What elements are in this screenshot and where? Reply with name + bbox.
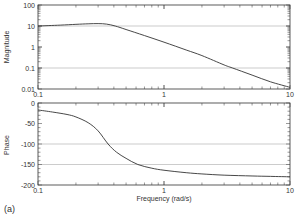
y-tick-label: 100 (23, 2, 35, 9)
y-tick-label: -100 (21, 141, 35, 148)
magnitude-axes-frame (38, 5, 290, 89)
magnitude-grid (38, 26, 290, 68)
y-tick-label: 1 (31, 44, 35, 51)
y-tick-label: 0 (31, 100, 35, 107)
frequency-x-axis-label: Frequency (rad/s) (136, 195, 191, 203)
magnitude-x-tick-labels: 0.1110 (33, 91, 294, 98)
y-tick-label: 10 (27, 23, 35, 30)
panel-label: (a) (4, 204, 15, 214)
phase-y-axis-label: Phase (3, 135, 10, 155)
bode-plot: 1001010.10.01 0.1110 Magnitude 0-50-100-… (0, 0, 298, 220)
y-tick-label: 0.1 (25, 65, 35, 72)
magnitude-y-axis-label: Magnitude (3, 31, 11, 64)
x-tick-label: 0.1 (33, 91, 43, 98)
phase-panel: 0-50-100-150-200 0.1110 Phase Frequency … (3, 100, 294, 204)
phase-x-tick-labels: 0.1110 (33, 187, 294, 194)
x-tick-label: 0.1 (33, 187, 43, 194)
x-tick-label: 10 (286, 187, 294, 194)
phase-grid (38, 144, 290, 165)
x-tick-label: 1 (162, 91, 166, 98)
magnitude-y-tick-labels: 1001010.10.01 (21, 2, 35, 93)
x-tick-label: 1 (162, 187, 166, 194)
phase-y-tick-labels: 0-50-100-150-200 (21, 100, 35, 189)
x-tick-label: 10 (286, 91, 294, 98)
y-tick-label: -50 (25, 120, 35, 127)
magnitude-panel: 1001010.10.01 0.1110 Magnitude (3, 2, 294, 99)
magnitude-curve (38, 24, 290, 88)
magnitude-ticks (38, 5, 290, 89)
phase-curve (38, 110, 290, 177)
y-tick-label: -150 (21, 161, 35, 168)
